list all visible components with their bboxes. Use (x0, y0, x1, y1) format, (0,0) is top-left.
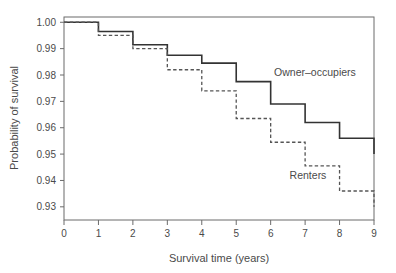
x-tick-label: 9 (371, 228, 377, 239)
y-tick-label: 0.96 (37, 122, 57, 133)
y-axis-title: Probability of survival (8, 66, 20, 170)
x-tick-label: 1 (96, 228, 102, 239)
x-tick-label: 8 (337, 228, 343, 239)
x-tick-label: 6 (268, 228, 274, 239)
x-axis-title: Survival time (years) (169, 252, 269, 264)
series-label-renters: Renters (290, 169, 327, 181)
x-tick-label: 4 (199, 228, 205, 239)
x-tick-label: 3 (165, 228, 171, 239)
y-tick-label: 0.98 (37, 70, 57, 81)
y-tick-label: 0.94 (37, 175, 57, 186)
survival-plot-svg: 0.930.940.950.960.970.980.991.00 0123456… (0, 0, 396, 273)
y-tick-label: 0.93 (37, 201, 57, 212)
x-tick-label: 5 (233, 228, 239, 239)
x-tick-label: 0 (61, 228, 67, 239)
x-tick-label: 7 (302, 228, 308, 239)
y-tick-label: 0.95 (37, 149, 57, 160)
y-tick-label: 0.99 (37, 43, 57, 54)
y-tick-label: 1.00 (37, 17, 57, 28)
survival-chart-figure: 0.930.940.950.960.970.980.991.00 0123456… (0, 0, 396, 273)
x-tick-label: 2 (130, 228, 136, 239)
series-label-owner-occupiers: Owner–occupiers (274, 66, 356, 78)
y-tick-label: 0.97 (37, 96, 57, 107)
